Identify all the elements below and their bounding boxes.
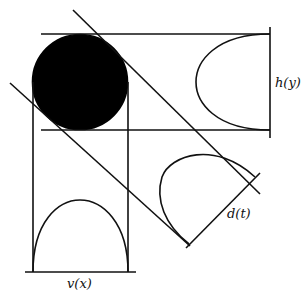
d-profile-curve [160,155,255,244]
h-profile-curve [196,34,270,130]
label-v: v(x) [67,276,92,291]
projection-diagram [0,0,308,298]
label-d: d(t) [227,206,251,221]
label-h: h(y) [275,75,301,90]
v-profile-curve [33,200,128,272]
